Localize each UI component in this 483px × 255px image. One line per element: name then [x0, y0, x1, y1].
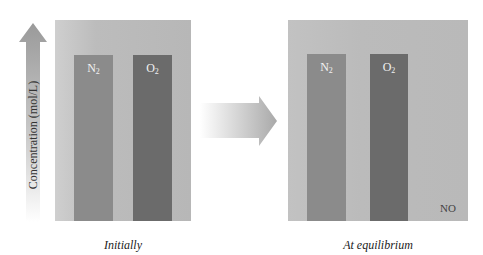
n2-label: N2 [307, 60, 346, 75]
o2-label: O2 [133, 61, 172, 76]
equilibrium-caption: At equilibrium [288, 238, 468, 253]
o2-bar-initial: O2 [133, 55, 172, 221]
o2-bar-equilibrium: O2 [370, 54, 408, 221]
no-label: NO [440, 202, 456, 214]
initial-caption: Initially [55, 238, 191, 253]
equilibrium-panel: N2 O2 NO [288, 20, 468, 221]
n2-bar-initial: N2 [74, 55, 113, 221]
n2-bar-equilibrium: N2 [307, 54, 346, 221]
initial-panel: N2 O2 [55, 20, 191, 221]
transition-right-arrow-icon [198, 94, 280, 148]
y-axis-label: Concentration (mol/L) [26, 50, 41, 220]
n2-label: N2 [74, 61, 113, 76]
o2-label: O2 [370, 60, 408, 75]
